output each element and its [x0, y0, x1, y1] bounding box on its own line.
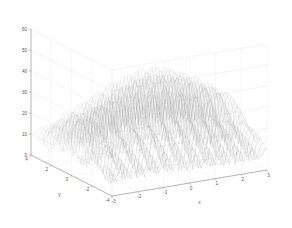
x-tick-label: 0 [190, 186, 193, 191]
z-tick-label: 20 [22, 111, 28, 116]
y-tick-label: 4 [25, 157, 28, 162]
x-tick-label: -3 [111, 199, 116, 204]
x-tick-label: -1 [163, 190, 168, 195]
z-tick-label: 60 [22, 27, 28, 32]
x-tick-label: -2 [137, 194, 142, 199]
axis-label-layer: 0102030405060420-2-4-3-2-10123yx [0, 0, 292, 228]
x-axis-label: x [198, 200, 201, 205]
y-tick-label: -2 [85, 187, 90, 192]
x-tick-label: 3 [267, 173, 270, 178]
x-tick-label: 2 [241, 177, 244, 182]
z-tick-label: 30 [22, 90, 28, 95]
z-tick-label: 10 [22, 132, 28, 137]
y-tick-label: 0 [66, 177, 69, 182]
figure-3d-mesh-plot: 0102030405060420-2-4-3-2-10123yx [0, 0, 292, 228]
x-tick-label: 1 [216, 181, 219, 186]
y-tick-label: 2 [45, 167, 48, 172]
y-axis-label: y [58, 192, 61, 197]
y-tick-label: -4 [105, 198, 110, 203]
z-tick-label: 40 [22, 69, 28, 74]
z-tick-label: 50 [22, 48, 28, 53]
